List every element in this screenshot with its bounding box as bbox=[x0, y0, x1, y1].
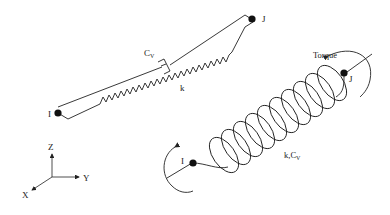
damper-icon bbox=[158, 59, 170, 74]
node-j-left bbox=[248, 15, 255, 22]
linear-spring-damper bbox=[58, 15, 253, 119]
z-axis-label: Z bbox=[48, 142, 54, 152]
node-j-right-label: J bbox=[349, 74, 353, 84]
x-axis-arrow-icon bbox=[32, 177, 52, 190]
damper-label: CV bbox=[144, 48, 155, 59]
node-i-left bbox=[54, 109, 61, 116]
x-axis-label: X bbox=[22, 190, 29, 200]
torque-label: Torque bbox=[313, 50, 337, 60]
coordinate-axes bbox=[32, 154, 79, 190]
damper-rod-right bbox=[170, 15, 245, 65]
spring-icon bbox=[58, 22, 253, 119]
node-j-left-label: J bbox=[262, 14, 266, 24]
node-i-right bbox=[189, 159, 196, 166]
coil-label: k,CV bbox=[284, 150, 301, 161]
coil-icon bbox=[204, 60, 353, 177]
spring-damper-diagram: I J CV k I J Torque k,CV bbox=[0, 0, 390, 215]
torque-arrow-i-icon bbox=[164, 147, 193, 192]
spring-label: k bbox=[180, 83, 185, 93]
node-i-right-label: I bbox=[181, 156, 184, 166]
y-axis-label: Y bbox=[83, 173, 90, 183]
node-j-right bbox=[340, 69, 347, 76]
node-i-left-label: I bbox=[48, 109, 51, 119]
damper-rod-left bbox=[58, 67, 162, 107]
